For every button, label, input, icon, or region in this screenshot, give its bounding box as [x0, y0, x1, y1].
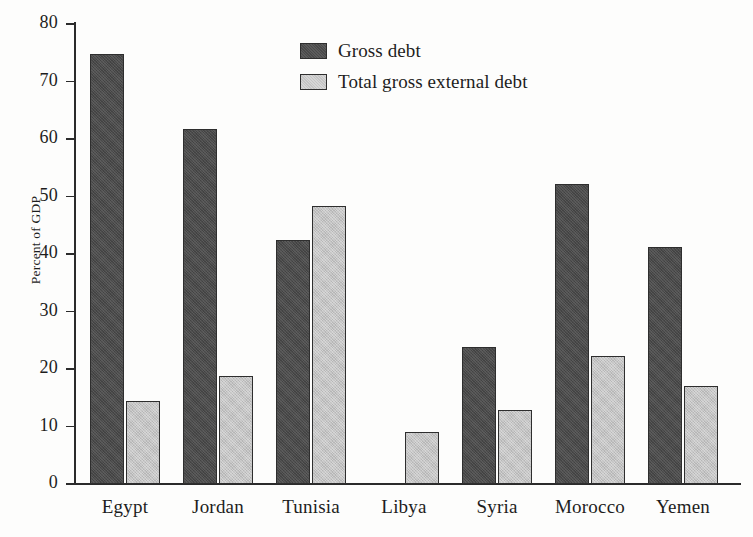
- x-tick-label-libya: Libya: [351, 496, 457, 518]
- bar-group: [183, 24, 276, 484]
- bar-morocco-gross-debt: [555, 184, 589, 484]
- bar-tunisia-gross-debt: [276, 240, 310, 484]
- x-tick-label-yemen: Yemen: [630, 496, 736, 518]
- legend-label: Total gross external debt: [338, 71, 528, 93]
- x-tick-label-morocco: Morocco: [537, 496, 643, 518]
- x-tick-label-tunisia: Tunisia: [258, 496, 364, 518]
- y-tick-label: 10: [14, 415, 58, 436]
- x-tick-label-egypt: Egypt: [72, 496, 178, 518]
- bar-yemen-gross-debt: [648, 247, 682, 484]
- y-tick-label: 50: [14, 185, 58, 206]
- y-tick-label: 60: [14, 127, 58, 148]
- y-tick-label: 0: [14, 472, 58, 493]
- legend-item: Total gross external debt: [300, 71, 528, 93]
- y-tick-mark: [66, 196, 74, 197]
- y-tick-mark: [66, 23, 74, 24]
- bar-tunisia-external-debt: [312, 206, 346, 484]
- y-tick-mark: [66, 253, 74, 254]
- y-tick-label: 30: [14, 300, 58, 321]
- legend-swatch-icon: [300, 43, 327, 59]
- y-tick-mark: [66, 81, 74, 82]
- bar-jordan-external-debt: [219, 376, 253, 484]
- y-tick-mark: [66, 426, 74, 427]
- y-tick-mark: [66, 483, 74, 484]
- bar-yemen-external-debt: [684, 386, 718, 484]
- x-tick-label-jordan: Jordan: [165, 496, 271, 518]
- y-tick-label: 40: [14, 242, 58, 263]
- legend-swatch-icon: [300, 74, 327, 90]
- bar-syria-external-debt: [498, 410, 532, 484]
- bar-libya-external-debt: [405, 432, 439, 484]
- chart-figure: Percent of GDP 80706050403020100 EgyptJo…: [0, 0, 753, 537]
- bar-group: [648, 24, 741, 484]
- y-tick-mark: [66, 138, 74, 139]
- bar-group: [90, 24, 183, 484]
- y-tick-label: 20: [14, 357, 58, 378]
- y-axis-title: Percent of GDP: [28, 196, 44, 284]
- y-tick-mark: [66, 311, 74, 312]
- y-tick-label: 70: [14, 70, 58, 91]
- bar-jordan-gross-debt: [183, 129, 217, 484]
- y-tick-label: 80: [14, 12, 58, 33]
- bar-group: [555, 24, 648, 484]
- bar-morocco-external-debt: [591, 356, 625, 484]
- x-tick-label-syria: Syria: [444, 496, 550, 518]
- legend-item: Gross debt: [300, 40, 528, 62]
- bar-egypt-gross-debt: [90, 54, 124, 484]
- y-tick-mark: [66, 368, 74, 369]
- legend-label: Gross debt: [338, 40, 421, 62]
- bar-egypt-external-debt: [126, 401, 160, 484]
- chart-legend: Gross debtTotal gross external debt: [300, 40, 528, 102]
- bar-syria-gross-debt: [462, 347, 496, 484]
